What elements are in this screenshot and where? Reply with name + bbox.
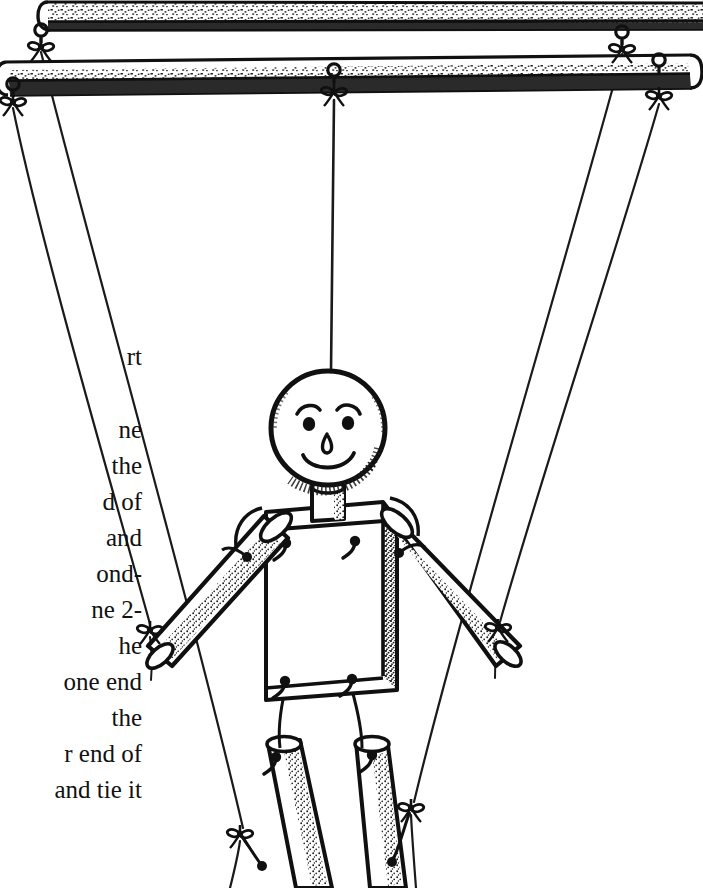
instruction-line-8: he bbox=[118, 633, 142, 658]
instruction-line-7: ne 2- bbox=[91, 597, 142, 622]
instruction-line-5: and bbox=[106, 525, 142, 550]
illustration-page: rt ne the d of and ond- ne 2- he one end… bbox=[0, 0, 703, 888]
instruction-line-4: d of bbox=[102, 489, 142, 514]
instruction-line-10: the bbox=[111, 705, 142, 730]
instruction-line-1: rt bbox=[127, 344, 142, 369]
instruction-line-3: the bbox=[111, 453, 142, 478]
puppet-face-eye-right bbox=[342, 416, 354, 430]
instruction-line-6: ond- bbox=[96, 561, 142, 586]
instruction-text-column: rt ne the d of and ond- ne 2- he one end… bbox=[0, 0, 150, 888]
instruction-line-11: r end of bbox=[64, 741, 142, 766]
instruction-line-2: ne bbox=[118, 417, 142, 442]
instruction-line-12: and tie it bbox=[55, 777, 142, 802]
instruction-line-9: one end bbox=[64, 669, 142, 694]
puppet-face-eye-left bbox=[303, 417, 315, 431]
